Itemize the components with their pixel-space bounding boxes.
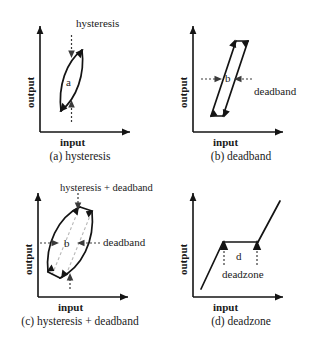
inner-label-c: b (64, 237, 70, 249)
x-axis-label-c: input (58, 301, 83, 313)
deadband-width-marker-c (40, 240, 100, 247)
x-axis-label-d: input (213, 301, 238, 313)
callout-deadband-c: deadband (103, 236, 145, 248)
callout-deadzone-d: deadzone (222, 268, 264, 280)
callout-hysteresis-deadband-c: hysteresis + deadband (60, 182, 153, 194)
panel-hysteresis-deadband: b hysteresis + deadband deadband input o… (0, 171, 160, 341)
axes-a (37, 26, 130, 135)
y-axis-label-d: output (177, 244, 189, 275)
panel-hysteresis: a hysteresis input output (a) hysteresis (0, 0, 160, 170)
caption-d: (d) deadzone (161, 315, 321, 327)
y-axis-label-c: output (22, 244, 34, 275)
x-axis-label-b: input (213, 136, 238, 148)
y-axis-label-a: output (24, 77, 36, 108)
nonlinearity-figure: a hysteresis input output (a) hysteresis (0, 0, 321, 341)
callout-deadband-b: deadband (254, 85, 296, 97)
x-axis-label-a: input (60, 136, 85, 148)
caption-c: (c) hysteresis + deadband (0, 315, 160, 327)
inner-label-a: a (66, 76, 71, 88)
caption-a: (a) hysteresis (0, 150, 160, 162)
callout-hysteresis-a: hysteresis (76, 17, 119, 29)
caption-b: (b) deadband (161, 150, 321, 162)
y-axis-label-b: output (177, 77, 189, 108)
panel-deadband: b deadband input output (b) deadband (161, 0, 321, 170)
inner-label-b: b (225, 72, 231, 84)
inner-label-d: d (236, 250, 242, 262)
panel-deadzone: d deadzone input output (d) deadzone (161, 171, 321, 341)
